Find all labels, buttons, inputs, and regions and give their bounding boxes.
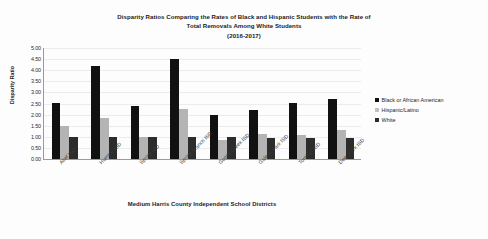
bar (289, 103, 298, 159)
x-axis-title: Medium Harris County Independent School … (43, 201, 361, 207)
bar-group (124, 48, 164, 159)
y-axis-tick-label: 3.50 (31, 78, 41, 84)
legend-swatch-icon (375, 118, 379, 122)
chart-title: Disparity Ratios Comparing the Rates of … (44, 12, 444, 40)
bar (91, 66, 100, 159)
chart-title-line-3: (2016-2017) (44, 31, 444, 40)
legend-label: Black or African American (382, 97, 444, 103)
y-axis-tick-label: 4.50 (31, 56, 41, 62)
x-axis-category-labels: Alief ISDHumble ISDSpring ISDSpring Bran… (44, 161, 362, 197)
y-axis-tick-label: 2.00 (31, 112, 41, 118)
y-axis-tick-label: 3.00 (31, 89, 41, 95)
y-axis-tick-label: 2.50 (31, 101, 41, 107)
bar (170, 59, 179, 159)
legend-item[interactable]: Hispanic/Latino (375, 105, 483, 115)
legend-item[interactable]: White (375, 115, 483, 125)
y-axis-tick-label: 0.00 (31, 156, 41, 162)
disparity-ratio-bar-chart: Disparity Ratios Comparing the Rates of … (0, 0, 488, 239)
legend-label: White (382, 117, 396, 123)
bar (131, 106, 140, 159)
y-axis-title: Disparity Ratio (9, 66, 15, 104)
chart-title-line-2: Total Removals Among White Students (44, 21, 444, 30)
bar (210, 115, 219, 159)
bar (249, 110, 258, 159)
bar (328, 99, 337, 159)
legend-swatch-icon (375, 108, 379, 112)
y-axis-tick-label: 0.50 (31, 145, 41, 151)
legend-swatch-icon (375, 98, 379, 102)
y-axis-tick-label: 1.50 (31, 123, 41, 129)
y-axis-tick-label: 5.00 (31, 45, 41, 51)
bar (52, 103, 61, 159)
y-axis-tick-label: 4.00 (31, 67, 41, 73)
chart-legend: Black or African AmericanHispanic/Latino… (375, 95, 483, 125)
legend-label: Hispanic/Latino (382, 107, 419, 113)
legend-item[interactable]: Black or African American (375, 95, 483, 105)
chart-title-line-1: Disparity Ratios Comparing the Rates of … (44, 12, 444, 21)
y-axis-tick-label: 1.00 (31, 134, 41, 140)
bar-group (45, 48, 85, 159)
